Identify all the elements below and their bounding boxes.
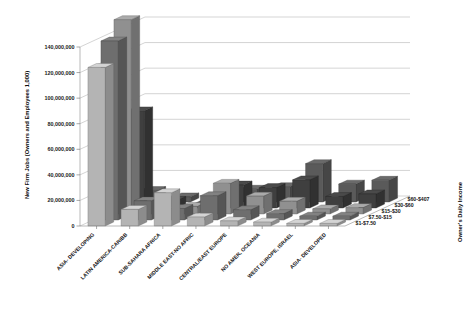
y-tick-label-6: 120,000,000 [45,70,75,76]
bar-side-face [218,192,227,220]
bar-side-face [144,107,153,208]
z-axis-title: Owner's Daily Income [457,181,463,242]
bar-front-face [287,223,304,226]
y-axis-title: New Firm Jobs (Owners and Employees 1,00… [24,71,30,199]
y-tick-label-4: 80,000,000 [48,121,75,127]
y-tick-label-1: 20,000,000 [48,197,75,203]
chart-3d-bar: 020,000,00040,000,00060,000,00080,000,00… [0,0,476,322]
bar-side-face [105,64,114,226]
bar-side-face [310,176,319,208]
bar-front-face [88,67,105,226]
z-axis-label-4: $60-$407 [408,196,430,202]
bar-front-face [154,193,171,226]
back-wall [145,17,410,196]
chart-canvas: 020,000,00040,000,00060,000,00080,000,00… [0,0,476,322]
bar-asiadeveloping-0 [88,64,114,226]
z-axis-label-2: $15-$30 [382,208,401,214]
x-axis-label-7: ASIA- DEVELOPED [289,231,328,270]
z-axis-label-1: $7.50-$15 [369,214,392,220]
bar-side-face [118,37,127,220]
y-tick-label-0: 0 [72,223,75,229]
y-tick-label-7: 140,000,000 [45,44,75,50]
bar-side-face [389,176,398,202]
bar-front-face [320,223,337,226]
y-tick-label-5: 100,000,000 [45,95,75,101]
y-tick-label-2: 40,000,000 [48,172,75,178]
z-axis-label-0: $1-$7.50 [356,220,377,226]
bar-latinamericacaribb-0 [121,205,147,226]
z-axis-label-3: $30-$60 [395,202,414,208]
bar-front-face [254,222,271,226]
bar-subsaharaafrica-0 [154,189,180,226]
bar-front-face [220,221,237,226]
bar-side-face [171,189,180,226]
bar-side-face [131,16,140,214]
bar-front-face [121,209,138,226]
y-tick-label-3: 60,000,000 [48,146,75,152]
bar-front-face [187,217,204,226]
